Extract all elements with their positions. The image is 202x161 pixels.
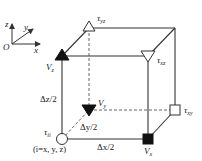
vy-label: Vy <box>98 98 107 109</box>
vx-label: Vx <box>144 146 153 157</box>
vx-filled-square-icon <box>143 134 153 144</box>
coordinate-axes: z y O x <box>3 19 40 55</box>
vz-label: Vz <box>46 62 55 73</box>
y-axis-arrow-icon <box>12 29 33 44</box>
tau-ii-circle-icon <box>57 134 68 145</box>
dz-half-label: Δz/2 <box>40 94 57 104</box>
tau-yz-triangle-icon <box>83 21 95 31</box>
tau-yz-label: τyz <box>97 13 106 24</box>
z-axis-label: z <box>4 19 9 29</box>
tau-xy-square-icon <box>170 105 180 115</box>
tau-xy-label: τxy <box>184 105 193 116</box>
staggered-grid-diagram: z y O x τyz τxz V <box>0 0 202 161</box>
origin-label: O <box>3 42 10 52</box>
vy-filled-inverted-triangle-icon <box>82 105 96 116</box>
dy-half-label: Δy/2 <box>80 122 97 132</box>
tau-xz-label: τxz <box>157 55 166 66</box>
y-axis-label: y <box>23 22 28 32</box>
tau-ii-label: τii <box>44 127 51 138</box>
x-axis-label: x <box>33 45 38 55</box>
hidden-edges <box>62 28 175 139</box>
tau-ii-note: (i=x, y, z) <box>33 144 66 154</box>
cube-edges <box>62 28 175 139</box>
dx-half-label: Δx/2 <box>97 142 114 152</box>
